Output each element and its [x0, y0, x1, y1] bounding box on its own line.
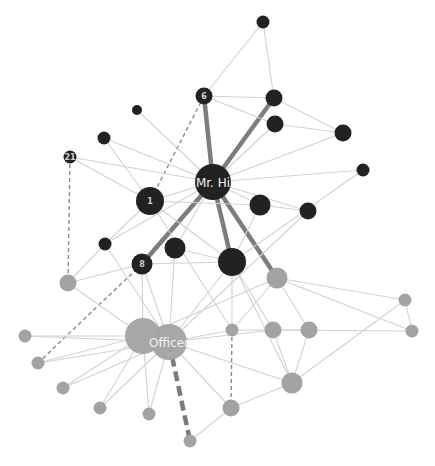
node-g12[interactable]	[226, 324, 239, 337]
node-circle[interactable]	[60, 275, 77, 292]
node-nb[interactable]	[267, 116, 284, 133]
edge-ntop-na	[263, 22, 274, 98]
edge-n6-na	[204, 96, 274, 98]
node-g5[interactable]	[32, 357, 45, 370]
node-n8[interactable]: 8	[132, 254, 153, 275]
node-n21[interactable]: 21	[64, 151, 77, 164]
node-circle[interactable]	[357, 164, 370, 177]
node-circle[interactable]	[267, 268, 288, 289]
edge-layer	[25, 22, 412, 441]
node-g6[interactable]	[57, 382, 70, 395]
node-circle[interactable]	[267, 116, 284, 133]
node-circle[interactable]	[282, 373, 303, 394]
node-g1[interactable]	[267, 268, 288, 289]
edge-g1-g16	[277, 278, 412, 331]
node-circle[interactable]	[143, 408, 156, 421]
edge-n8-g1x	[68, 264, 142, 283]
node-circle[interactable]	[226, 324, 239, 337]
edge-nd-mrhi	[213, 170, 363, 182]
node-ni[interactable]	[99, 238, 112, 251]
node-circle[interactable]	[57, 382, 70, 395]
node-circle[interactable]	[266, 90, 283, 107]
node-n6[interactable]: 6	[196, 88, 213, 105]
node-layer: Mr. Hi61218Officer	[19, 16, 419, 448]
node-ne[interactable]	[132, 105, 142, 115]
node-g11[interactable]	[282, 373, 303, 394]
node-circle[interactable]	[335, 125, 352, 142]
node-g15[interactable]	[399, 294, 412, 307]
node-ng[interactable]	[250, 195, 271, 216]
node-g10[interactable]	[223, 400, 240, 417]
node-circle[interactable]	[32, 357, 45, 370]
edge-nb-nc	[275, 124, 343, 133]
node-circle[interactable]	[151, 324, 187, 360]
node-nh[interactable]	[300, 203, 317, 220]
node-circle[interactable]	[196, 88, 213, 105]
node-na[interactable]	[266, 90, 283, 107]
node-ntop[interactable]	[257, 16, 270, 29]
node-g13[interactable]	[265, 322, 282, 339]
node-circle[interactable]	[64, 151, 77, 164]
edge-na-nc	[274, 98, 343, 133]
node-nj[interactable]	[165, 238, 186, 259]
node-nf[interactable]	[98, 132, 111, 145]
node-circle[interactable]	[98, 132, 111, 145]
edge-g13-g16	[273, 330, 412, 331]
node-circle[interactable]	[300, 203, 317, 220]
node-circle[interactable]	[223, 400, 240, 417]
node-circle[interactable]	[265, 322, 282, 339]
node-n1[interactable]: 1	[136, 187, 164, 215]
node-nk[interactable]	[218, 248, 246, 276]
node-circle[interactable]	[19, 330, 32, 343]
node-g8[interactable]	[143, 408, 156, 421]
node-circle[interactable]	[132, 254, 153, 275]
edge-g15-g11	[292, 300, 405, 383]
edge-n8-g5	[38, 264, 142, 363]
edge-n1-ng	[150, 201, 260, 205]
edge-g12-g10	[231, 330, 232, 408]
node-circle[interactable]	[406, 325, 419, 338]
edge-n21-g1x	[68, 157, 70, 283]
node-circle[interactable]	[165, 238, 186, 259]
node-g2[interactable]	[60, 275, 77, 292]
node-circle[interactable]	[399, 294, 412, 307]
node-g7[interactable]	[94, 402, 107, 415]
node-g14[interactable]	[301, 322, 318, 339]
node-g4[interactable]	[19, 330, 32, 343]
node-mrhi[interactable]: Mr. Hi	[195, 164, 231, 200]
node-circle[interactable]	[257, 16, 270, 29]
node-g9[interactable]	[184, 435, 197, 448]
edge-ntop-n6	[204, 22, 263, 96]
edge-n21-mrhi	[70, 157, 213, 182]
node-circle[interactable]	[195, 164, 231, 200]
network-graph: Mr. Hi61218Officer	[0, 0, 435, 466]
node-circle[interactable]	[136, 187, 164, 215]
node-circle[interactable]	[218, 248, 246, 276]
node-circle[interactable]	[184, 435, 197, 448]
node-circle[interactable]	[99, 238, 112, 251]
node-circle[interactable]	[94, 402, 107, 415]
node-circle[interactable]	[301, 322, 318, 339]
edge-nd-nk	[232, 170, 363, 262]
node-nc[interactable]	[335, 125, 352, 142]
node-nd[interactable]	[357, 164, 370, 177]
node-g16[interactable]	[406, 325, 419, 338]
edge-g1-g15	[277, 278, 405, 300]
node-circle[interactable]	[250, 195, 271, 216]
edge-officer-g11	[169, 342, 292, 383]
node-circle[interactable]	[132, 105, 142, 115]
